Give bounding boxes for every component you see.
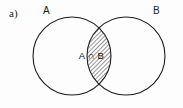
set-b-label: B — [153, 5, 160, 16]
item-label: a) — [9, 7, 18, 19]
intersection-region-label: A ∩ B — [0, 50, 183, 61]
venn-diagram-figure: a) A B A ∩ B — [0, 0, 183, 108]
set-a-label: A — [43, 5, 50, 16]
